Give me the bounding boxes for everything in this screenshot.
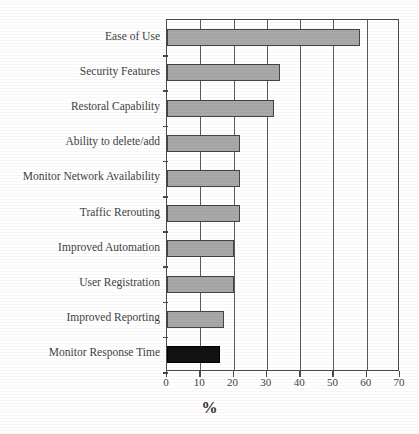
- category-axis-tick: [163, 196, 168, 198]
- bar: [167, 346, 220, 363]
- plot-area: [166, 19, 399, 371]
- gridline: [367, 20, 368, 370]
- bar: [167, 276, 234, 293]
- value-axis-tick-label: 10: [184, 376, 214, 388]
- clipped-chart-title: [0, 0, 419, 9]
- category-label: Restoral Capability: [0, 100, 160, 113]
- value-axis-tick-label: 60: [351, 376, 381, 388]
- category-label: Security Features: [0, 65, 160, 78]
- bar: [167, 205, 240, 222]
- bar: [167, 100, 274, 117]
- bar-chart: Ease of UseSecurity FeaturesRestoral Cap…: [0, 0, 419, 434]
- category-axis-tick: [163, 266, 168, 268]
- category-label: Ability to delete/add: [0, 135, 160, 148]
- category-label: Improved Reporting: [0, 311, 160, 324]
- category-axis-tick: [163, 55, 168, 57]
- category-axis-tick: [163, 161, 168, 163]
- bar: [167, 311, 224, 328]
- category-label: Improved Automation: [0, 241, 160, 254]
- bar: [167, 135, 240, 152]
- bar: [167, 64, 280, 81]
- value-axis-tick-label: 20: [218, 376, 248, 388]
- value-axis-tick-label: 50: [317, 376, 347, 388]
- category-axis-tick: [163, 337, 168, 339]
- category-label: Ease of Use: [0, 30, 160, 43]
- category-axis-tick: [163, 126, 168, 128]
- category-axis-tick: [163, 302, 168, 304]
- value-axis-tick-label: 40: [284, 376, 314, 388]
- value-axis-tick-label: 70: [384, 376, 414, 388]
- value-axis-tick-label: 30: [251, 376, 281, 388]
- category-axis-tick: [163, 231, 168, 233]
- category-label: User Registration: [0, 276, 160, 289]
- category-label: Monitor Network Availability: [0, 170, 160, 183]
- value-axis-tick-label: 0: [151, 376, 181, 388]
- bar: [167, 29, 360, 46]
- category-label: Monitor Response Time: [0, 346, 160, 359]
- category-label: Traffic Rerouting: [0, 206, 160, 219]
- category-axis-tick: [163, 90, 168, 92]
- axis-title: %: [0, 399, 419, 417]
- gridline: [333, 20, 334, 370]
- bar: [167, 170, 240, 187]
- bar: [167, 240, 234, 257]
- gridline: [300, 20, 301, 370]
